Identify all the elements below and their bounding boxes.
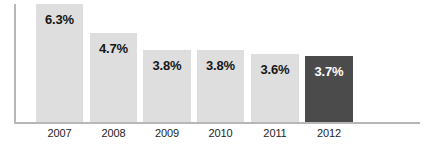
bar-group-2008: 4.7% [90,33,137,122]
bar-group-2009: 3.8% [143,50,191,122]
x-tick-label-2010: 2010 [197,128,244,139]
bar-value-label-2009: 3.8% [143,59,191,72]
x-tick-label-2009: 2009 [143,128,191,139]
plot-area: 6.3% 4.7% 3.8% 3.8% 3.6% 3.7% [0,0,426,123]
bar-value-label-2011: 3.6% [251,63,299,76]
x-tick-label-2007: 2007 [36,128,83,139]
bar-group-2011: 3.6% [251,54,299,122]
x-tick-label-2012: 2012 [305,128,353,139]
bar-chart: 6.3% 4.7% 3.8% 3.8% 3.6% 3.7% 2007 2008 … [0,0,426,146]
bar-value-label-2007: 6.3% [36,13,83,26]
bar-group-2007: 6.3% [36,4,83,122]
bar-value-label-2012: 3.7% [305,65,353,78]
x-tick-label-2008: 2008 [90,128,137,139]
bar-value-label-2008: 4.7% [90,42,137,55]
bar-group-2010: 3.8% [197,50,244,122]
x-tick-label-2011: 2011 [251,128,299,139]
bar-group-2012: 3.7% [305,56,353,122]
bar-value-label-2010: 3.8% [197,59,244,72]
